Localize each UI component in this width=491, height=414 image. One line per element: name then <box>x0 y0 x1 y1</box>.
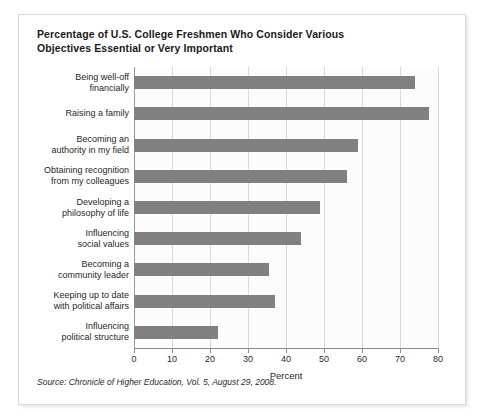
category-label: Raising a family <box>19 108 129 119</box>
category-label: Influencingsocial values <box>19 228 129 250</box>
category-label: Influencingpolitical structure <box>19 321 129 343</box>
category-label-line: Raising a family <box>19 108 129 119</box>
tick-mark-80 <box>438 349 439 353</box>
chart-title: Percentage of U.S. College Freshmen Who … <box>37 27 437 55</box>
category-label-line: political structure <box>19 332 129 343</box>
bar <box>134 295 275 308</box>
tick-mark-70 <box>400 349 401 353</box>
category-label: Obtaining recognitionfrom my colleagues <box>19 165 129 187</box>
category-label-line: Being well-off <box>19 72 129 83</box>
source-publication: Chronicle of Higher Education <box>69 377 182 387</box>
category-label-line: social values <box>19 239 129 250</box>
category-label-line: Developing a <box>19 197 129 208</box>
chart-title-line-1: Percentage of U.S. College Freshmen Who … <box>37 27 437 41</box>
source-prefix: Source: <box>37 377 66 387</box>
bar <box>134 170 347 183</box>
bar <box>134 232 301 245</box>
bar <box>134 139 358 152</box>
category-label-line: Becoming a <box>19 259 129 270</box>
tick-mark-30 <box>248 349 249 353</box>
x-tick-label-80: 80 <box>418 354 458 364</box>
x-tick-label-50: 50 <box>304 354 344 364</box>
category-label-line: Keeping up to date <box>19 290 129 301</box>
bar <box>134 263 269 276</box>
x-tick-label-40: 40 <box>266 354 306 364</box>
tick-mark-40 <box>286 349 287 353</box>
x-tick-label-70: 70 <box>380 354 420 364</box>
category-label: Becoming anauthority in my field <box>19 134 129 156</box>
category-label: Developing aphilosophy of life <box>19 197 129 219</box>
x-tick-label-30: 30 <box>228 354 268 364</box>
source-details: , Vol. 5, August 29, 2008. <box>182 377 277 387</box>
source-note: Source: Chronicle of Higher Education, V… <box>37 377 276 387</box>
bar <box>134 201 320 214</box>
x-tick-label-60: 60 <box>342 354 382 364</box>
category-label: Becoming acommunity leader <box>19 259 129 281</box>
bar <box>134 107 429 120</box>
category-label-line: authority in my field <box>19 145 129 156</box>
category-label-line: community leader <box>19 270 129 281</box>
bar <box>134 326 218 339</box>
category-label-line: philosophy of life <box>19 208 129 219</box>
tick-mark-0 <box>134 349 135 353</box>
category-label: Being well-offfinancially <box>19 72 129 94</box>
category-label: Keeping up to datewith political affairs <box>19 290 129 312</box>
category-label-line: with political affairs <box>19 301 129 312</box>
x-tick-label-0: 0 <box>114 354 154 364</box>
x-tick-label-10: 10 <box>152 354 192 364</box>
category-label-line: Obtaining recognition <box>19 165 129 176</box>
tick-mark-60 <box>362 349 363 353</box>
category-label-line: from my colleagues <box>19 176 129 187</box>
gridline-80 <box>438 67 439 348</box>
chart-figure-frame: Percentage of U.S. College Freshmen Who … <box>18 14 466 405</box>
bar <box>134 76 415 89</box>
tick-mark-20 <box>210 349 211 353</box>
category-label-line: Influencing <box>19 228 129 239</box>
category-label-line: Becoming an <box>19 134 129 145</box>
tick-mark-10 <box>172 349 173 353</box>
x-tick-label-20: 20 <box>190 354 230 364</box>
tick-mark-50 <box>324 349 325 353</box>
category-label-line: financially <box>19 83 129 94</box>
chart-title-line-2: Objectives Essential or Very Important <box>37 41 437 55</box>
category-label-line: Influencing <box>19 321 129 332</box>
